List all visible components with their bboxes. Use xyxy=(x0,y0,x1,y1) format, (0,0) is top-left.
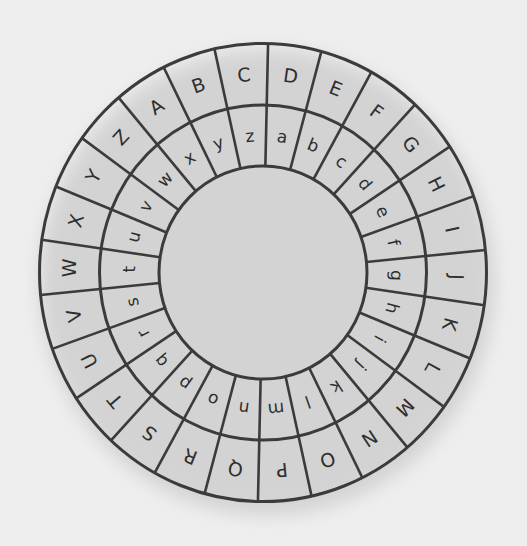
inner-segment-divider xyxy=(259,379,260,440)
outer-ring-letter: D xyxy=(282,64,300,88)
outer-ring-letter: Q xyxy=(226,457,244,481)
outer-segment-divider xyxy=(258,440,259,501)
inner-ring-letter: m xyxy=(267,398,285,420)
outer-ring-letter: P xyxy=(275,459,289,482)
inner-ring-letter: t xyxy=(119,265,139,272)
inner-segment-divider xyxy=(265,105,266,166)
outer-ring-letter: C xyxy=(236,63,251,86)
outer-ring-letter: J xyxy=(446,273,468,280)
cipher-wheel: DEFGHIJKLMNOPQRSTUVWXYZABC abcdefghijklm… xyxy=(0,0,527,546)
inner-ring-letter: g xyxy=(387,270,407,281)
outer-ring-letter: W xyxy=(58,258,80,277)
outer-segment-divider xyxy=(267,43,268,104)
